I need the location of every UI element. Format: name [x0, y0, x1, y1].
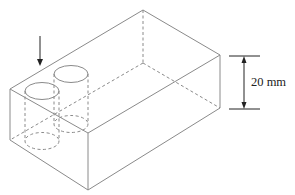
- hole-left-bottom-ellipse: [25, 133, 59, 150]
- dimension-arrow-up-icon: [242, 56, 247, 63]
- block-hidden-edges: [10, 10, 220, 140]
- edge-bottom-front-left: [10, 140, 88, 190]
- block-top-face: [10, 10, 220, 133]
- hidden-edge-back-right: [143, 63, 220, 108]
- dimension-label: 20 mm: [251, 75, 286, 90]
- dimension-arrow-down-icon: [242, 102, 247, 109]
- load-arrow-icon: [37, 36, 43, 66]
- hidden-edge-back-left: [10, 63, 143, 140]
- edge-bottom-front-right: [88, 108, 220, 190]
- block-diagram: [0, 0, 295, 195]
- hole-right-top-ellipse: [54, 66, 88, 83]
- block-visible-edges: [10, 10, 220, 190]
